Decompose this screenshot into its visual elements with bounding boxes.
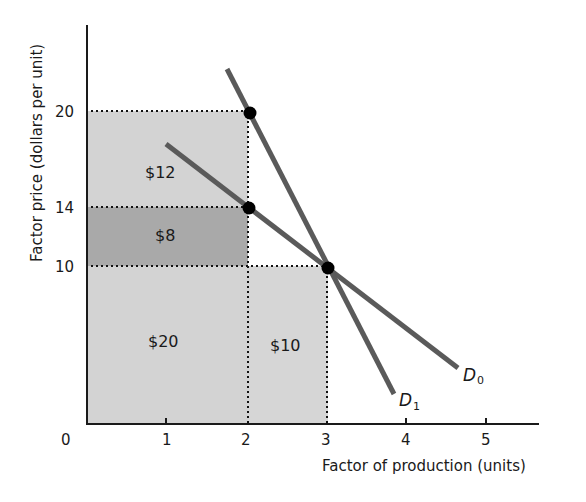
x-tick-label-1: 1 xyxy=(162,431,172,449)
x-tick-label-5: 5 xyxy=(481,431,491,449)
area-12 xyxy=(86,111,248,207)
y-tick-label-10: 10 xyxy=(55,258,74,276)
x-tick-label-2: 2 xyxy=(241,431,251,449)
area-label-20: $20 xyxy=(148,332,179,351)
shaded-areas xyxy=(86,111,328,424)
point-2-14 xyxy=(243,202,256,215)
x-tick-label-3: 3 xyxy=(321,431,331,449)
curve-label-d1: D1 xyxy=(399,390,420,413)
point-3-10 xyxy=(322,262,335,275)
point-2-20 xyxy=(244,107,257,120)
x-tick-label-4: 4 xyxy=(401,431,411,449)
area-label-12: $12 xyxy=(145,163,176,182)
y-tick-label-14: 14 xyxy=(55,199,74,217)
origin-label: 0 xyxy=(61,431,71,449)
area-label-10: $10 xyxy=(270,336,301,355)
chart: $12 $8 $20 $10 20 14 10 0 1 2 3 4 5 Fact… xyxy=(0,0,586,502)
x-axis-title: Factor of production (units) xyxy=(322,457,526,475)
y-tick-label-20: 20 xyxy=(55,103,74,121)
curve-label-d0: D0 xyxy=(463,365,484,387)
y-axis-title: Factor price (dollars per unit) xyxy=(28,44,46,262)
area-label-8: $8 xyxy=(155,226,175,245)
